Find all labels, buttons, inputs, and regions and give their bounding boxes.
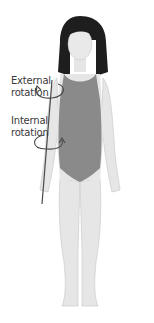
internal-rotation-label-line1: Internal [11,115,49,127]
external-rotation-label: External rotation [11,75,51,99]
swimsuit [59,74,102,182]
anatomy-figure [0,0,154,323]
internal-rotation-label: Internal rotation [11,115,49,139]
external-rotation-label-line2: rotation [11,87,51,99]
external-rotation-label-line1: External [11,75,51,87]
legs [59,178,101,306]
internal-rotation-label-line2: rotation [11,127,49,139]
